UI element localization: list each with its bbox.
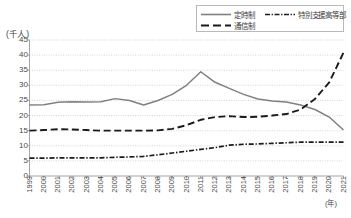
x-tick-label: 2008: [154, 176, 162, 193]
x-tick-label: 2013: [225, 176, 233, 193]
x-axis-tick-labels: 1999200020012002200320042005200620072008…: [0, 176, 351, 218]
x-tick-label: 2002: [68, 176, 76, 193]
series-line-1: [30, 142, 344, 158]
x-tick-label: 2003: [83, 176, 91, 193]
x-tick-label: 2005: [111, 176, 119, 193]
x-tick-label: 2015: [254, 176, 262, 193]
x-tick-label: 2014: [240, 176, 248, 193]
x-tick-label: 2012: [211, 176, 219, 193]
x-tick-label: 2006: [125, 176, 133, 193]
series-line-0: [30, 72, 344, 130]
x-tick-label: 2021: [340, 176, 348, 193]
x-tick-label: 2019: [311, 176, 319, 193]
x-tick-label: 2010: [183, 176, 191, 193]
x-tick-label: 2020: [325, 176, 333, 193]
x-tick-label: 2016: [268, 176, 276, 193]
x-tick-label: 2017: [282, 176, 290, 193]
x-tick-label: 2000: [40, 176, 48, 193]
line-chart: (千人) 定時制 特別支援高等部 通信制: [0, 0, 351, 218]
x-axis-unit-label: (年): [325, 197, 337, 208]
x-tick-label: 2009: [168, 176, 176, 193]
x-tick-label: 2004: [97, 176, 105, 193]
x-tick-label: 2001: [54, 176, 62, 193]
x-tick-label: 2018: [297, 176, 305, 193]
series-line-2: [30, 53, 344, 131]
x-tick-label: 2011: [197, 176, 205, 192]
x-tick-label: 2007: [140, 176, 148, 193]
x-tick-label: 1999: [26, 176, 34, 193]
